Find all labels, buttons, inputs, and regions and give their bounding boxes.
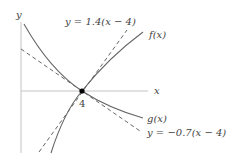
curve-f [51, 32, 143, 153]
y-axis-label: y [15, 9, 22, 20]
tangent-g-label: y = −0.7(x − 4) [146, 127, 226, 138]
x-axis-label: x [154, 85, 160, 96]
curve-f-label: f(x) [148, 29, 166, 40]
curve-g-label: g(x) [147, 113, 167, 124]
diagram-canvas: y x 4 y = 1.4(x − 4) f(x) g(x) y = −0.7(… [0, 0, 242, 166]
point-label: 4 [79, 98, 85, 109]
tangent-point [79, 88, 84, 93]
tangent-f-label: y = 1.4(x − 4) [64, 16, 136, 27]
